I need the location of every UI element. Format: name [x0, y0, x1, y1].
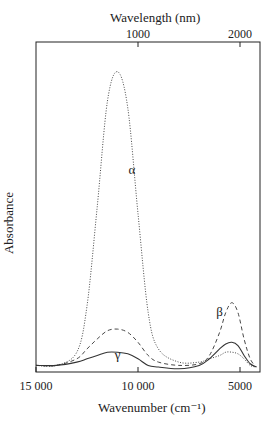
x2-tick-label: 1000	[126, 27, 150, 41]
absorbance-chart: 15 00010 0005000 10002000 αβγ	[0, 0, 274, 423]
series-dashed-line	[36, 303, 256, 367]
x-tick-label: 10 000	[122, 379, 155, 393]
curve-label: β	[216, 304, 223, 319]
x-tick-label: 5000	[228, 379, 252, 393]
x2-tick-label: 2000	[228, 27, 252, 41]
bottom-axis-ticks: 15 00010 0005000	[20, 367, 253, 393]
curve-label: α	[128, 162, 135, 177]
x-tick-label: 15 000	[20, 379, 53, 393]
top-axis-ticks: 10002000	[126, 27, 252, 47]
plot-frame	[36, 42, 260, 372]
series-layer	[36, 72, 256, 369]
y-axis-title: Absorbance	[1, 192, 17, 254]
series-dotted-line	[36, 72, 256, 367]
series-solid-line	[36, 342, 256, 368]
top-axis-title: Wavelength (nm)	[110, 10, 200, 26]
curve-label: γ	[114, 347, 121, 362]
bottom-axis-title: Wavenumber (cm⁻¹)	[98, 400, 206, 416]
curve-labels: αβγ	[114, 162, 224, 362]
